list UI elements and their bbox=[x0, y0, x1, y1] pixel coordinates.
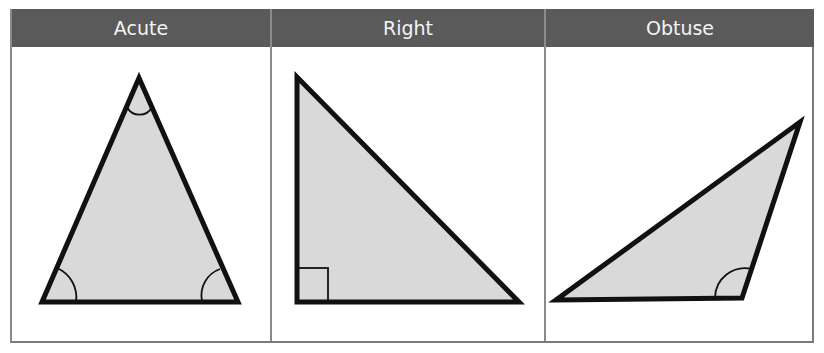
acute-triangle bbox=[42, 78, 238, 302]
obtuse-triangle bbox=[556, 122, 800, 300]
right-triangle bbox=[297, 77, 519, 302]
triangles-diagram bbox=[0, 0, 824, 353]
